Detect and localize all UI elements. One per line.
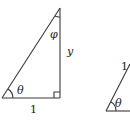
theta-arc: [8, 89, 13, 98]
triangle-diagram: θ φ y 1 θ 1: [0, 0, 130, 121]
right-angle-marker: [54, 92, 60, 98]
hypotenuse-label-right: 1: [121, 60, 128, 73]
theta-label: θ: [17, 84, 24, 97]
left-triangle: θ φ y 1: [2, 8, 74, 116]
right-triangle: θ 1: [106, 60, 130, 111]
left-triangle-hypotenuse: [2, 8, 60, 98]
phi-arc: [55, 16, 60, 17]
y-label: y: [66, 45, 74, 58]
theta-label-right: θ: [115, 97, 122, 110]
base-label: 1: [30, 103, 37, 116]
phi-label: φ: [50, 28, 58, 41]
